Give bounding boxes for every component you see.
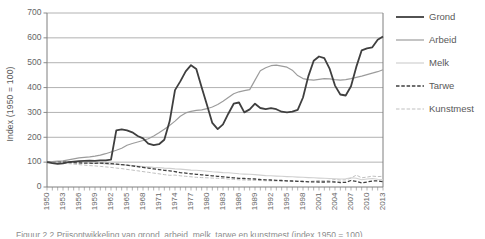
y-tick-label: 700 [27,7,41,17]
x-tick-label: 1968 [138,192,147,210]
legend-item-grond: Grond [396,5,485,28]
x-tick-label: 1974 [170,192,179,210]
x-tick-label: 2007 [346,192,355,210]
legend-label-arbeid: Arbeid [429,34,456,45]
x-tick-label: 1977 [186,192,195,210]
legend-swatch-grond [396,14,424,20]
x-tick-label: 1992 [266,192,275,210]
series-line-melk [47,162,383,180]
x-tick-label: 1962 [106,192,115,210]
x-tick-label: 2013 [378,192,387,210]
legend-item-arbeid: Arbeid [396,28,485,51]
y-tick-label: 200 [27,132,41,142]
y-tick-label: 400 [27,82,41,92]
legend-item-kunstmest: Kunstmest [396,97,485,120]
y-tick-label: 300 [27,107,41,117]
legend-swatch-arbeid [396,37,424,43]
legend: GrondArbeidMelkTarweKunstmest [396,5,485,120]
x-tick-label: 1998 [298,192,307,210]
legend-swatch-kunstmest [396,106,424,112]
price-index-figure: Index (1950 = 100) 010020030040050060070… [0,0,485,239]
legend-label-kunstmest: Kunstmest [429,103,474,114]
x-tick-label: 1950 [42,192,51,210]
series-line-grond [47,37,383,164]
x-tick-label: 2001 [314,192,323,210]
legend-swatch-melk [396,60,424,66]
x-tick-label: 2004 [330,192,339,210]
y-tick-label: 100 [27,156,41,166]
legend-label-tarwe: Tarwe [429,80,454,91]
x-tick-label: 1995 [282,192,291,210]
x-tick-label: 1959 [90,192,99,210]
x-tick-label: 1971 [154,192,163,210]
legend-swatch-tarwe [396,83,424,89]
x-tick-label: 1956 [74,192,83,210]
x-tick-label: 1983 [218,192,227,210]
legend-label-grond: Grond [429,11,455,22]
y-tick-label: 600 [27,32,41,42]
x-tick-label: 1986 [234,192,243,210]
legend-label-melk: Melk [429,57,449,68]
x-tick-label: 2010 [362,192,371,210]
x-tick-label: 1953 [58,192,67,210]
x-tick-label: 1980 [202,192,211,210]
figure-caption-clipped: Figuur 2.2 Prijsontwikkeling van grond, … [16,230,483,237]
legend-item-tarwe: Tarwe [396,74,485,97]
x-tick-label: 1965 [122,192,131,210]
y-tick-label: 0 [37,181,42,191]
legend-item-melk: Melk [396,51,485,74]
x-tick-label: 1989 [250,192,259,210]
y-tick-label: 500 [27,57,41,67]
